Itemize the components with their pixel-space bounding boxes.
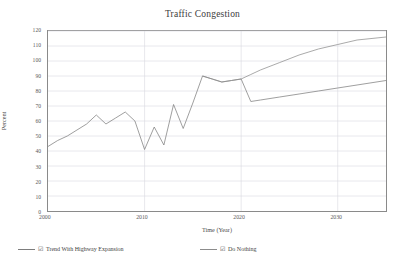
- x-tick-label: 2020: [233, 214, 245, 220]
- y-tick-label: 80: [35, 88, 41, 94]
- legend-label: Do Nothing: [228, 246, 257, 252]
- y-tick-label: 110: [33, 42, 41, 48]
- legend-entry-1[interactable]: ☑Do Nothing: [200, 243, 257, 255]
- y-axis-tick-labels: 0102030405060708090100110120: [0, 30, 44, 212]
- y-tick-label: 10: [35, 194, 41, 200]
- legend-entry-0[interactable]: ☑Trend With Highway Expansion: [18, 243, 124, 255]
- x-axis-title: Time (Year): [47, 226, 387, 233]
- x-axis-tick-labels: 2000201020202030: [47, 214, 387, 226]
- traffic-congestion-chart: Traffic Congestion Percent 0102030405060…: [0, 0, 405, 265]
- y-tick-label: 70: [35, 103, 41, 109]
- chart-title: Traffic Congestion: [0, 9, 405, 19]
- y-tick-label: 100: [33, 57, 41, 63]
- y-tick-label: 50: [35, 133, 41, 139]
- legend-label: Trend With Highway Expansion: [46, 246, 124, 252]
- x-tick-label: 2000: [39, 214, 51, 220]
- x-tick-label: 2010: [136, 214, 148, 220]
- y-tick-label: 40: [35, 148, 41, 154]
- y-tick-label: 30: [35, 164, 41, 170]
- chart-legend: ☑Trend With Highway Expansion☑Do Nothing: [0, 243, 405, 259]
- y-tick-label: 90: [35, 73, 41, 79]
- data-series-layer: [48, 31, 386, 211]
- x-tick-label: 2030: [330, 214, 342, 220]
- legend-line-swatch: [18, 249, 35, 250]
- legend-checkbox-icon[interactable]: ☑: [38, 246, 43, 252]
- legend-line-swatch: [200, 249, 217, 250]
- y-tick-label: 60: [35, 118, 41, 124]
- series-line-1: [203, 37, 386, 82]
- series-line-0: [48, 76, 386, 150]
- y-tick-label: 120: [33, 27, 41, 33]
- plot-area: [47, 30, 387, 212]
- y-tick-label: 20: [35, 179, 41, 185]
- legend-checkbox-icon[interactable]: ☑: [220, 246, 225, 252]
